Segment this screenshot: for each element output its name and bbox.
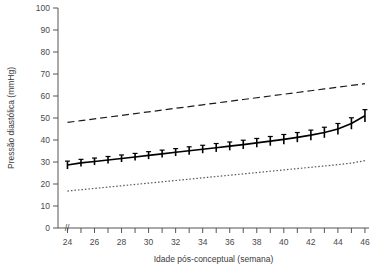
y-tick-label: 90 xyxy=(41,25,51,35)
series-line-1 xyxy=(67,116,364,165)
x-tick-label: 28 xyxy=(117,237,127,247)
x-axis-title: Idade pós-conceptual (semana) xyxy=(154,254,274,264)
x-tick-label: 32 xyxy=(171,237,181,247)
x-tick-label: 24 xyxy=(63,237,73,247)
x-tick-label: 42 xyxy=(306,237,316,247)
y-axis-title-text: Pressão diastólica (mmHg) xyxy=(6,67,16,169)
axis-break-label: // xyxy=(65,223,70,233)
y-tick-label: 30 xyxy=(41,157,51,167)
y-tick-label: 70 xyxy=(41,69,51,79)
x-tick-label: 30 xyxy=(144,237,154,247)
y-tick-label: 0 xyxy=(45,223,50,233)
chart-figure: Pressão diastólica (mmHg) 01020304050607… xyxy=(0,0,377,267)
y-tick-label: 60 xyxy=(41,91,51,101)
y-tick-label: 10 xyxy=(41,201,51,211)
x-tick-label: 46 xyxy=(360,237,370,247)
x-axis-title-text: Idade pós-conceptual (semana) xyxy=(154,254,274,264)
x-tick-label: 40 xyxy=(279,237,289,247)
y-tick-label: 50 xyxy=(41,113,51,123)
diastolic-pressure-chart: Pressão diastólica (mmHg) 01020304050607… xyxy=(0,0,377,267)
x-tick-label: 36 xyxy=(225,237,235,247)
x-axis-ticks: 242628303234363840424446 xyxy=(63,228,370,247)
x-tick-label: 26 xyxy=(90,237,100,247)
x-tick-label: 34 xyxy=(198,237,208,247)
y-tick-label: 100 xyxy=(36,3,50,13)
x-tick-label: 38 xyxy=(252,237,262,247)
y-tick-label: 40 xyxy=(41,135,51,145)
y-axis-ticks: 0102030405060708090100 xyxy=(36,3,58,233)
x-tick-label: 44 xyxy=(333,237,343,247)
y-tick-label: 80 xyxy=(41,47,51,57)
series-line-0 xyxy=(67,84,364,123)
data-series-group xyxy=(67,84,364,191)
y-tick-label: 20 xyxy=(41,179,51,189)
series-line-2 xyxy=(67,161,364,191)
axis-break-icon: // xyxy=(65,223,70,233)
y-axis-title: Pressão diastólica (mmHg) xyxy=(6,67,16,169)
